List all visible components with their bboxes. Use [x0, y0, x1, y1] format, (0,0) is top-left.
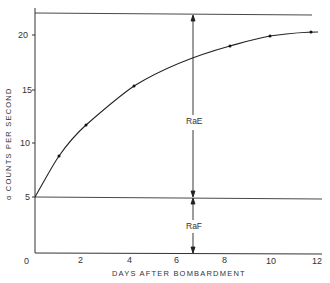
rae-label: RaE	[186, 116, 203, 126]
data-point	[133, 85, 136, 88]
data-point	[269, 35, 272, 38]
baseline-line	[35, 197, 322, 199]
data-point	[310, 31, 313, 34]
x-tick-0: 0	[24, 256, 29, 266]
y-axis-label: α COUNTS PER SECOND	[4, 87, 13, 200]
x-axis	[35, 253, 322, 254]
asymptote-line	[35, 13, 312, 15]
data-point	[229, 45, 232, 48]
y-tick-5: 5	[25, 192, 30, 202]
data-point	[58, 155, 61, 158]
growth-curve	[35, 32, 318, 197]
chart: 20 15 10 5 0 2 4 6 8 10 12 DAYS AFTER BO…	[0, 0, 330, 283]
y-tick-10: 10	[20, 138, 30, 148]
x-tick-10: 10	[266, 256, 276, 266]
y-tick-15: 15	[22, 85, 32, 95]
x-tick-4: 4	[127, 255, 132, 265]
x-tick-2: 2	[78, 255, 83, 265]
x-tick-6: 6	[174, 255, 179, 265]
rae-arrow	[191, 15, 195, 197]
x-tick-8: 8	[222, 255, 227, 265]
data-point	[85, 124, 88, 127]
data-points	[58, 31, 313, 158]
x-axis-label: DAYS AFTER BOMBARDMENT	[112, 269, 246, 278]
x-tick-12: 12	[312, 256, 322, 266]
y-tick-20: 20	[18, 30, 28, 40]
raf-label: RaF	[186, 221, 202, 231]
